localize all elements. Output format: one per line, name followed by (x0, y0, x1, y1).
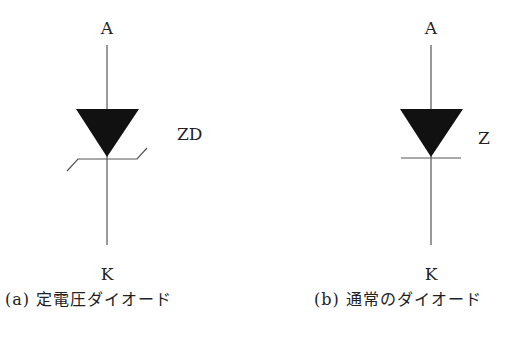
symbol-label-a: ZD (177, 126, 202, 143)
cathode-label-a: K (101, 266, 114, 283)
caption-b: (b) 通常のダイオード (314, 292, 482, 308)
anode-label-b: A (425, 20, 437, 37)
caption-a: (a) 定電圧ダイオード (5, 292, 172, 308)
diode-triangle-icon (400, 109, 463, 157)
anode-label-a: A (101, 20, 113, 37)
symbol-label-b: Z (478, 130, 490, 147)
diode-symbol (400, 45, 463, 245)
diode-triangle-icon (76, 109, 139, 157)
cathode-label-b: K (425, 266, 438, 283)
zener-diode-symbol (67, 45, 147, 245)
